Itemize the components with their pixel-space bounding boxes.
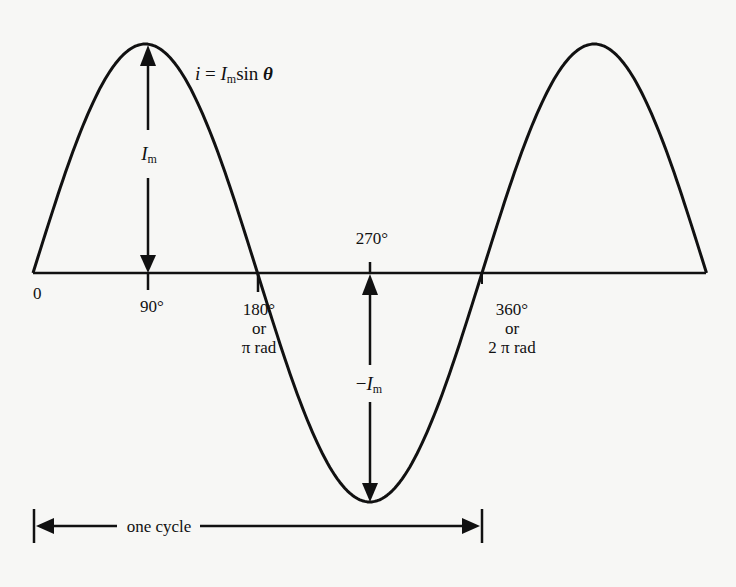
tick-label-270: 270° xyxy=(356,230,388,247)
tick-label-0: 0 xyxy=(33,285,42,302)
tick-label-360: 360° or 2 π rad xyxy=(488,300,535,357)
waveform-plot xyxy=(0,0,736,587)
negative-amplitude-label: −Im xyxy=(356,374,382,395)
arrowhead-down-icon xyxy=(362,483,378,502)
tick-label-90: 90° xyxy=(140,298,164,315)
arrowhead-right-icon xyxy=(462,518,480,534)
equation-label: i = Imsin θ xyxy=(195,64,273,85)
one-cycle-span xyxy=(34,509,482,543)
one-cycle-label: one cycle xyxy=(127,518,192,535)
arrowhead-up-icon xyxy=(362,274,378,295)
arrowhead-down-icon xyxy=(140,255,156,273)
arrowhead-up-icon xyxy=(140,45,156,66)
sine-wave-diagram: i = Imsin θ Im −Im 0 90° 180° or π rad 2… xyxy=(0,0,736,587)
amplitude-label: Im xyxy=(141,144,157,165)
tick-label-180: 180° or π rad xyxy=(242,300,277,357)
arrowhead-left-icon xyxy=(36,518,54,534)
